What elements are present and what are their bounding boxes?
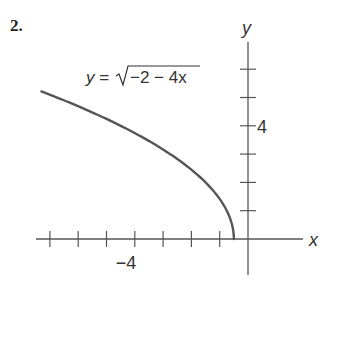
function-curve: [41, 91, 233, 239]
y-tick-label: 4: [257, 117, 267, 137]
equation-prefix: y =: [85, 68, 109, 87]
x-axis-label: x: [308, 230, 319, 250]
equation-radicand: −2 − 4x: [130, 68, 187, 87]
function-graph: x y −4 4 y = −2 − 4x: [0, 0, 338, 352]
x-tick-label: −4: [116, 253, 137, 273]
y-axis-label: y: [240, 18, 252, 38]
equation-label: y = −2 − 4x: [85, 66, 200, 87]
